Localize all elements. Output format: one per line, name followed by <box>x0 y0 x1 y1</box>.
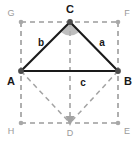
vertex-dot-a <box>18 68 24 74</box>
side-label-b: b <box>38 38 44 48</box>
point-label-b: B <box>124 76 132 87</box>
point-label-a: A <box>7 76 15 87</box>
arrowhead-icon <box>66 116 75 126</box>
vertex-dot-e <box>116 121 121 126</box>
vertex-dot-f <box>116 20 121 25</box>
point-label-c: C <box>66 4 74 15</box>
construction-line-ad <box>21 71 70 123</box>
side-label-a: a <box>99 38 105 48</box>
point-label-d: D <box>67 129 74 138</box>
point-label-h: H <box>8 127 15 136</box>
vertex-dot-g <box>19 20 24 25</box>
geometry-canvas <box>0 0 135 142</box>
vertex-dot-c <box>67 19 73 25</box>
triangle-side-b <box>21 22 70 71</box>
point-label-e: E <box>124 127 130 136</box>
vertex-dot-h <box>19 121 24 126</box>
triangle-side-a <box>70 22 118 71</box>
construction-line-bd <box>70 71 118 123</box>
altitude-arrow-cd <box>66 22 75 126</box>
vertex-dot-b <box>115 68 121 74</box>
side-label-c: c <box>80 78 86 88</box>
geometry-figure: C A B G F H E D b a c <box>0 0 135 142</box>
point-label-g: G <box>7 9 14 18</box>
point-label-f: F <box>124 9 130 18</box>
